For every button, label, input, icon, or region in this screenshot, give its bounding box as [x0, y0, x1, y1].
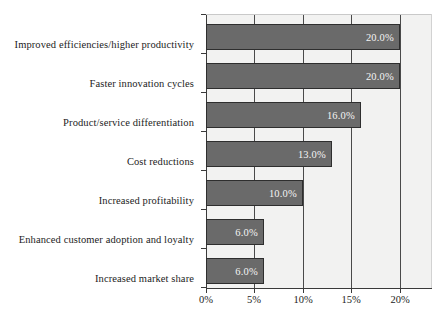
x-axis-tick-15 — [351, 288, 352, 293]
plot-right-border — [431, 14, 432, 288]
plot-top-border — [206, 14, 432, 15]
y-axis-tick — [201, 53, 206, 54]
x-axis-tick-0 — [206, 288, 207, 293]
category-label-column: Improved efficiencies/higher productivit… — [0, 14, 200, 288]
bar-chart: Improved efficiencies/higher productivit… — [0, 0, 444, 315]
bar-2[interactable]: 16.0% — [206, 102, 361, 128]
x-axis-line — [206, 288, 432, 289]
bar-1[interactable]: 20.0% — [206, 63, 400, 89]
gridline-15pct — [351, 14, 352, 288]
category-label-6: Increased market share — [95, 273, 194, 285]
y-axis-tick — [201, 209, 206, 210]
y-axis-tick — [201, 248, 206, 249]
bar-value-5: 6.0% — [235, 227, 258, 238]
bar-4[interactable]: 10.0% — [206, 180, 303, 206]
category-label-1: Faster innovation cycles — [90, 78, 194, 90]
bar-0[interactable]: 20.0% — [206, 24, 400, 50]
y-axis-tick — [201, 14, 206, 15]
bar-value-6: 6.0% — [235, 266, 258, 277]
x-axis-tick-10 — [303, 288, 304, 293]
plot-area: 20.0% 20.0% 16.0% 13.0% 10.0 — [206, 14, 432, 288]
bar-value-2: 16.0% — [327, 110, 355, 121]
bar-5[interactable]: 6.0% — [206, 219, 264, 245]
x-axis-label-10: 10% — [293, 294, 312, 305]
y-axis-tick — [201, 170, 206, 171]
bar-6[interactable]: 6.0% — [206, 258, 264, 284]
bar-value-4: 10.0% — [269, 188, 297, 199]
bar-3[interactable]: 13.0% — [206, 141, 332, 167]
category-label-4: Increased profitability — [99, 195, 194, 207]
x-axis-label-15: 15% — [341, 294, 360, 305]
plot-inner: 20.0% 20.0% 16.0% 13.0% 10.0 — [206, 14, 432, 288]
x-axis-label-5: 5% — [247, 294, 261, 305]
gridline-20pct — [400, 14, 401, 288]
category-label-0: Improved efficiencies/higher productivit… — [15, 39, 194, 51]
bar-value-1: 20.0% — [366, 71, 394, 82]
x-axis-label-20: 20% — [390, 294, 409, 305]
x-axis-label-0: 0% — [199, 294, 213, 305]
y-axis-tick — [201, 131, 206, 132]
category-label-5: Enhanced customer adoption and loyalty — [19, 234, 194, 246]
x-axis-tick-20 — [400, 288, 401, 293]
category-label-2: Product/service differentiation — [63, 117, 194, 129]
bar-value-0: 20.0% — [366, 32, 394, 43]
bar-value-3: 13.0% — [298, 149, 326, 160]
category-label-3: Cost reductions — [127, 156, 194, 168]
x-axis-tick-5 — [254, 288, 255, 293]
y-axis-tick — [201, 92, 206, 93]
